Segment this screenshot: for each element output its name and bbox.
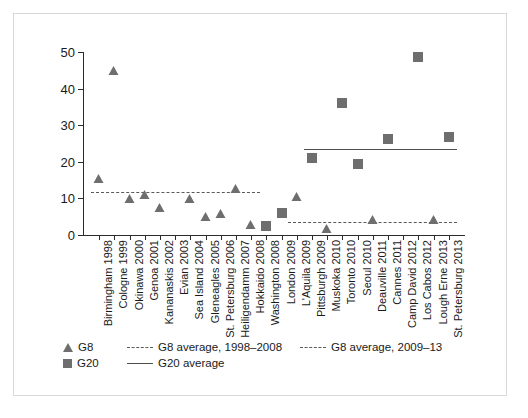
data-point-g8 [94,174,104,183]
data-point-g8 [215,209,225,218]
x-axis-tick [282,235,283,240]
plot-area: 01020304050 [84,52,464,235]
x-axis-tick-label: Toronto 2010 [346,240,357,304]
x-axis-tick-label: London 2009 [286,240,297,304]
legend-label: G8 [78,341,93,353]
x-axis-tick-label: St. Petersburg 2006 [225,240,236,338]
data-point-g20 [277,208,287,218]
x-axis-tick [418,235,419,240]
dotted-line-icon [300,347,326,348]
x-axis-tick-label: L'Aquila 2009 [301,240,312,306]
legend-item-g8: G8 [63,341,93,353]
x-axis-tick-label: Kananaskis 2002 [164,240,175,324]
x-axis-tick-label: Deauville 2011 [377,240,388,312]
x-axis-tick-label: Muskoka 2010 [331,240,342,312]
x-axis-tick [175,235,176,240]
legend-item-g20: G20 [63,357,99,369]
data-point-g20 [413,52,423,62]
reference-line [304,149,458,150]
x-axis-tick [130,235,131,240]
square-marker-icon [63,359,72,368]
legend-item-g20-average: G20 average [127,357,225,369]
x-axis-tick [160,235,161,240]
data-point-g8 [291,192,301,201]
legend-row-1: G8 G8 average, 1998–2008 G8 average, 200… [63,341,493,356]
y-axis-tick-label: 50 [61,46,75,59]
x-axis-tick-label: Lough Erne 2013 [438,240,449,324]
chart-figure: 01020304050 Birmingham 1998Cologne 1999O… [0,0,528,418]
x-axis-tick [342,235,343,240]
x-axis-tick-label: Cologne 1999 [118,240,129,309]
data-point-g8 [109,66,119,75]
legend-label: G8 average, 2009–13 [331,341,442,353]
y-axis-tick [78,52,84,53]
y-axis-tick-label: 30 [61,119,75,132]
data-point-g20 [383,134,393,144]
solid-line-icon [127,363,153,364]
x-axis-tick [206,235,207,240]
x-axis-tick-label: St. Petersburg 2013 [453,240,464,338]
x-axis-tick-label: Los Cabos 2012 [422,240,433,320]
legend-label: G20 [77,357,99,369]
y-axis-tick [78,198,84,199]
data-point-g8 [322,224,332,233]
data-point-g8 [367,215,377,224]
x-axis-tick-label: Seoul 2010 [362,240,373,296]
data-point-g8 [139,190,149,199]
y-axis-tick [78,235,84,236]
legend-label: G20 average [158,357,225,369]
x-axis-tick [99,235,100,240]
data-point-g20 [353,159,363,169]
data-point-g8 [124,194,134,203]
y-axis-tick-label: 0 [68,229,75,242]
data-point-g8 [231,184,241,193]
x-axis-tick [327,235,328,240]
x-axis-tick-label: Gleneagles 2005 [210,240,221,323]
x-axis-tick [251,235,252,240]
data-point-g20 [307,153,317,163]
y-axis-tick [78,125,84,126]
data-point-g20 [261,221,271,231]
x-axis-tick [236,235,237,240]
x-axis-tick-label: Camp David 2012 [407,240,418,328]
data-point-g8 [428,215,438,224]
legend-label: G8 average, 1998–2008 [158,341,282,353]
x-axis-tick-label: Cannes 2011 [392,240,403,305]
x-axis-tick [266,235,267,240]
y-axis-tick-label: 10 [61,192,75,205]
x-axis-tick [358,235,359,240]
data-point-g20 [337,98,347,108]
data-point-g8 [155,203,165,212]
x-axis-tick-label: Hokkaido 2008 [255,240,266,313]
x-axis-tick-label: Okinawa 2000 [134,240,145,310]
x-axis-tick-label: Birmingham 1998 [103,240,114,326]
x-axis-tick-label: Sea Island 2004 [194,240,205,320]
legend-row-2: G20 G20 average [63,356,493,371]
legend-item-g8-average-1998-2008: G8 average, 1998–2008 [127,341,282,353]
x-axis-tick-label: Heiligendamm 2007 [240,240,251,338]
x-axis-tick [403,235,404,240]
x-axis-tick-label: Genoa 2001 [149,240,160,301]
x-axis-tick [312,235,313,240]
x-axis-tick [388,235,389,240]
x-axis-tick-label: Pittsburgh 2009 [316,240,327,317]
legend-item-g8-average-2009-13: G8 average, 2009–13 [300,341,442,353]
y-axis-tick-label: 20 [61,155,75,168]
triangle-marker-icon [63,343,73,352]
y-axis-tick-label: 40 [61,82,75,95]
data-point-g8 [246,220,256,229]
x-axis-line [83,235,465,236]
x-axis-tick [190,235,191,240]
x-axis-tick [114,235,115,240]
x-axis-tick-label: Washington 2008 [270,240,281,325]
data-point-g20 [444,132,454,142]
y-axis-tick [78,89,84,90]
data-point-g8 [200,212,210,221]
y-axis-tick [78,162,84,163]
x-axis-tick [434,235,435,240]
data-point-g8 [185,194,195,203]
chart-legend: G8 G8 average, 1998–2008 G8 average, 200… [63,341,493,371]
x-axis-tick-label: Evian 2003 [179,240,190,295]
dashed-line-icon [127,347,153,348]
